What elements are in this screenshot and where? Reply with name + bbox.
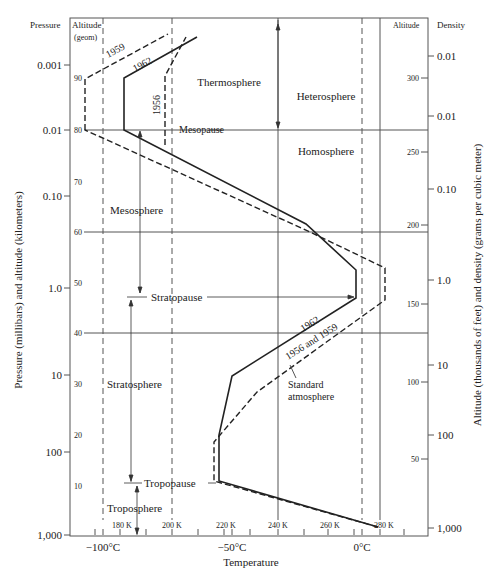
svg-text:10: 10	[51, 369, 63, 381]
altitude-km-labels: 90 80 70 60 50 40 30 20 10	[74, 74, 82, 491]
svg-text:50: 50	[74, 279, 82, 288]
svg-text:1,000: 1,000	[37, 529, 62, 541]
right-axis-title: Altitude (thousands of feet) and density…	[471, 143, 484, 426]
label-troposphere: Troposphere	[107, 502, 162, 514]
label-mesopause: Mesopause	[179, 124, 225, 135]
curve-1962	[124, 37, 378, 527]
svg-text:90: 90	[74, 74, 82, 83]
density-tick-labels: 0.01 0.01 0.10 1.0 10 100 1,000	[437, 50, 462, 534]
layer-boundaries	[84, 130, 428, 333]
bottom-axis-ticks	[95, 529, 404, 535]
kelvin-tick-labels: 180 K 200 K 220 K 240 K 260 K 280 K	[112, 521, 394, 530]
svg-text:1.0: 1.0	[437, 274, 451, 286]
x-axis-title: Temperature	[223, 556, 279, 568]
label-standard: Standard	[288, 379, 324, 390]
svg-text:50: 50	[411, 455, 419, 464]
svg-text:200: 200	[407, 221, 419, 230]
label-homosphere: Homosphere	[298, 145, 354, 157]
pressure-tick-labels: 0.001 0.01 0.10 1.0 10 100 1,000	[37, 59, 62, 541]
svg-text:150: 150	[407, 300, 419, 309]
density-header: Density	[437, 20, 465, 30]
svg-text:260 K: 260 K	[320, 521, 340, 530]
svg-text:80: 80	[74, 126, 82, 135]
svg-text:10: 10	[437, 359, 449, 371]
svg-text:1.0: 1.0	[48, 282, 62, 294]
svg-text:0.01: 0.01	[437, 50, 456, 62]
atmosphere-temperature-chart: 0.001 0.01 0.10 1.0 10 100 1,000 90 80 7…	[0, 0, 495, 580]
label-mesosphere: Mesosphere	[110, 204, 163, 216]
label-1956: 1956	[151, 95, 162, 115]
svg-text:0.10: 0.10	[437, 183, 457, 195]
svg-text:220 K: 220 K	[216, 521, 236, 530]
svg-text:300: 300	[407, 74, 419, 83]
label-1959: 1959	[104, 41, 127, 60]
svg-text:0.01: 0.01	[43, 124, 62, 136]
right-altitude-header: Altitude	[393, 21, 420, 30]
svg-text:40: 40	[74, 329, 82, 338]
curve-1956-1959	[85, 130, 385, 527]
svg-text:30: 30	[74, 380, 82, 389]
svg-text:70: 70	[74, 178, 82, 187]
altitude-header: Altitude	[72, 20, 102, 30]
label-stratosphere: Stratosphere	[107, 378, 162, 390]
svg-text:60: 60	[74, 228, 82, 237]
svg-text:240 K: 240 K	[268, 521, 288, 530]
celsius-tick-labels: −100°C −50°C 0°C	[86, 541, 371, 553]
svg-text:0°C: 0°C	[353, 541, 370, 553]
svg-text:20: 20	[74, 431, 82, 440]
svg-text:1,000: 1,000	[437, 522, 462, 534]
label-thermosphere: Thermosphere	[197, 76, 261, 88]
svg-text:0.01: 0.01	[437, 110, 456, 122]
svg-text:100: 100	[46, 446, 63, 458]
left-axis-title: Pressure (millibars) and altitude (kilom…	[12, 191, 25, 389]
label-stratopause: Stratopause	[151, 291, 202, 303]
svg-text:200 K: 200 K	[162, 521, 182, 530]
svg-text:280 K: 280 K	[374, 521, 394, 530]
label-1962-top: 1962	[131, 55, 154, 74]
label-atmosphere: atmosphere	[288, 391, 335, 402]
label-heterosphere: Heterosphere	[297, 90, 356, 102]
svg-text:10: 10	[74, 482, 82, 491]
label-tropopause: Tropopause	[144, 477, 196, 489]
svg-text:0.10: 0.10	[43, 190, 63, 202]
svg-text:100: 100	[407, 378, 419, 387]
svg-text:250: 250	[407, 148, 419, 157]
svg-text:180 K: 180 K	[112, 521, 132, 530]
altitude-kft-labels: 300 250 200 150 100 50	[407, 74, 419, 464]
altitude-subheader: (geom)	[74, 33, 97, 42]
svg-text:−100°C: −100°C	[86, 541, 120, 553]
svg-text:100: 100	[437, 429, 454, 441]
svg-text:−50°C: −50°C	[218, 541, 247, 553]
svg-text:0.001: 0.001	[37, 59, 62, 71]
left-axis-ticks	[64, 65, 70, 535]
pressure-header: Pressure	[30, 20, 61, 30]
